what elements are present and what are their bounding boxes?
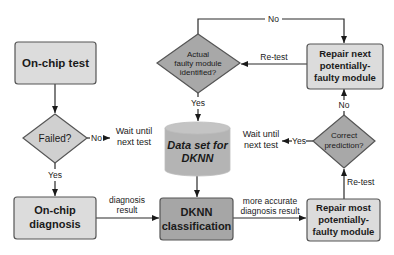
edge-label-failed-no: No xyxy=(91,133,102,143)
flowchart: On-chip test Failed? On-chip diagnosis D… xyxy=(0,0,394,255)
label-wait-2b: next test xyxy=(244,140,279,150)
edge-label-more-accurate-2: diagnosis result xyxy=(240,206,300,216)
label-on-chip-diagnosis-2: diagnosis xyxy=(29,218,80,230)
edge-actual-no-a xyxy=(198,19,265,34)
edge-label-actual-no: No xyxy=(268,14,279,24)
label-correct-1: Correct xyxy=(331,131,358,140)
label-repair-next-1: Repair next xyxy=(319,48,372,59)
node-wait-until-next-test-2: Wait until next test xyxy=(243,129,280,150)
edge-actual-no-b xyxy=(282,19,344,43)
label-repair-most-3: faulty module xyxy=(313,226,375,237)
edge-label-diagnosis-2: result xyxy=(117,205,138,215)
label-on-chip-diagnosis-1: On-chip xyxy=(34,204,76,216)
node-actual-faulty-decision: Actual faulty module identified? xyxy=(157,34,240,93)
edge-label-diagnosis-1: diagnosis xyxy=(109,195,145,205)
edge-label-correct-yes: Yes xyxy=(292,136,306,146)
node-repair-most: Repair most potentially- faulty module xyxy=(307,199,380,241)
edge-label-correct-no: No xyxy=(339,100,350,110)
label-dknn-2: classification xyxy=(162,220,232,232)
edge-label-actual-yes: Yes xyxy=(191,98,205,108)
label-on-chip-test: On-chip test xyxy=(22,57,89,69)
label-data-set-1: Data set for xyxy=(167,139,228,151)
node-repair-next: Repair next potentially- faulty module xyxy=(307,44,383,89)
label-wait-2a: Wait until xyxy=(243,129,280,139)
edge-label-retest-bottom: Re-test xyxy=(347,177,375,187)
label-actual-faulty-3: identified? xyxy=(180,68,217,77)
node-correct-prediction-decision: Correct prediction? xyxy=(313,115,375,168)
label-repair-next-3: faulty module xyxy=(314,72,376,83)
label-data-set-2: DKNN xyxy=(182,152,215,164)
node-on-chip-diagnosis: On-chip diagnosis xyxy=(14,197,96,239)
label-repair-most-2: potentially- xyxy=(318,214,369,225)
label-actual-faulty-1: Actual xyxy=(187,50,209,59)
node-data-set-cylinder: Data set for DKNN xyxy=(165,122,230,176)
label-repair-next-2: potentially- xyxy=(320,60,371,71)
node-on-chip-test: On-chip test xyxy=(15,42,96,84)
label-repair-most-1: Repair most xyxy=(316,202,372,213)
node-wait-until-next-test-1: Wait until next test xyxy=(116,126,153,147)
label-correct-2: prediction? xyxy=(324,141,364,150)
label-actual-faulty-2: faulty module xyxy=(174,59,222,68)
edge-label-retest-top: Re-test xyxy=(260,52,288,62)
label-wait-1b: next test xyxy=(117,137,152,147)
label-wait-1a: Wait until xyxy=(116,126,153,136)
edge-label-more-accurate-1: more accurate xyxy=(243,196,298,206)
edge-label-failed-yes: Yes xyxy=(48,170,62,180)
node-failed-decision: Failed? xyxy=(23,114,87,163)
label-failed: Failed? xyxy=(39,133,72,144)
node-dknn-classification: DKNN classification xyxy=(160,198,233,240)
label-dknn-1: DKNN xyxy=(181,206,213,218)
